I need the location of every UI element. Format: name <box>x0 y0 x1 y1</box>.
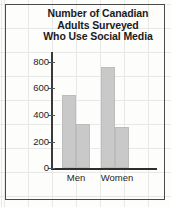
y-tick-label-600: 600 <box>33 83 49 92</box>
y-tick-label-400: 400 <box>33 110 49 119</box>
y-tick-label-200: 200 <box>33 137 49 146</box>
x-tick-label-women: Women <box>95 172 139 183</box>
y-axis-line <box>51 52 53 169</box>
y-tick-label-800: 800 <box>33 57 49 66</box>
bar-women-series-2 <box>115 127 129 168</box>
y-tick-mark-400 <box>48 115 55 116</box>
y-tick-mark-0 <box>48 168 55 169</box>
y-tick-mark-600 <box>48 88 55 89</box>
bar-men-series-2 <box>76 124 90 168</box>
y-tick-mark-800 <box>48 62 55 63</box>
plot-area: 800 600 400 200 0 Men Women <box>0 0 171 207</box>
bar-men-series-1 <box>62 95 76 168</box>
y-tick-mark-200 <box>48 142 55 143</box>
x-axis-line <box>51 168 157 170</box>
bar-women-series-1 <box>101 67 115 168</box>
chart-page: Number of Canadian Adults Surveyed Who U… <box>0 0 171 207</box>
x-tick-label-men: Men <box>58 172 94 183</box>
y-tick-label-0: 0 <box>44 163 49 172</box>
